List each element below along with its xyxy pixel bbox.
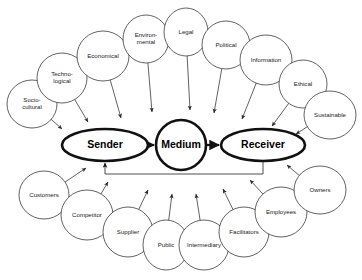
- stakeholder-link-competitor: [101, 182, 108, 194]
- macro-link-economical: [110, 80, 121, 118]
- core-node-medium: Medium: [156, 120, 206, 170]
- receiver-label: Receiver: [241, 138, 285, 150]
- node-label: logical: [53, 77, 70, 84]
- node-label: Ethical: [294, 80, 312, 87]
- macro-link-legal: [187, 56, 190, 110]
- macro-link-political: [214, 68, 222, 113]
- node-label: Sustainable: [314, 111, 346, 118]
- lower-arc-nodes: CustomersCompetitorSupplierPublicInterme…: [19, 166, 346, 270]
- macro-link-socio-cultural: [51, 119, 62, 129]
- node-label: Environ-: [135, 31, 158, 38]
- stakeholder-link-facilitators: [223, 189, 233, 210]
- macro-node-economical: Economical: [77, 31, 129, 81]
- stakeholder-link-intermediary: [196, 194, 200, 221]
- node-label: Supplier: [117, 228, 139, 235]
- node-label: Competitor: [72, 211, 102, 218]
- medium-label: Medium: [161, 138, 201, 150]
- stakeholder-link-owners: [287, 165, 299, 176]
- node-label: Facilitators: [229, 228, 258, 235]
- stakeholder-link-supplier: [139, 190, 148, 210]
- communication-model-diagram: Socio-culturalTechno-logicalEconomicalEn…: [0, 0, 362, 280]
- stakeholder-link-employees: [250, 180, 263, 194]
- stakeholder-node-owners: Owners: [294, 166, 346, 214]
- node-label: Socio-: [23, 96, 40, 103]
- macro-node-environ-mental: Environ-mental: [123, 15, 169, 63]
- macro-link-environ-mental: [148, 63, 152, 112]
- node-label: Political: [216, 41, 237, 48]
- node-label: Customers: [29, 191, 58, 198]
- stakeholder-link-public: [169, 194, 172, 220]
- stakeholder-link-customers: [65, 168, 86, 182]
- node-label: Techno-: [51, 70, 73, 77]
- core-node-receiver: Receiver: [221, 129, 305, 161]
- node-label: Legal: [179, 28, 194, 35]
- core-nodes: SenderMediumReceiver: [62, 120, 305, 170]
- macro-link-techno-logical: [75, 99, 88, 122]
- macro-node-sustainable: Sustainable: [304, 91, 356, 139]
- node-label: Public: [158, 241, 175, 248]
- node-label: Economical: [87, 52, 119, 59]
- sender-label: Sender: [87, 138, 123, 150]
- node-label: cultural: [22, 103, 42, 110]
- node-label: Employees: [266, 208, 296, 215]
- macro-node-legal: Legal: [164, 8, 208, 56]
- macro-link-ethical: [272, 103, 289, 126]
- node-label: Intermediary: [187, 241, 222, 248]
- node-label: Owners: [310, 186, 331, 193]
- core-node-sender: Sender: [62, 129, 148, 161]
- macro-link-information: [242, 83, 256, 119]
- node-label: mental: [137, 38, 155, 45]
- node-label: Information: [251, 56, 281, 63]
- macro-link-sustainable: [296, 127, 308, 134]
- diagram-canvas: Socio-culturalTechno-logicalEconomicalEn…: [0, 0, 362, 280]
